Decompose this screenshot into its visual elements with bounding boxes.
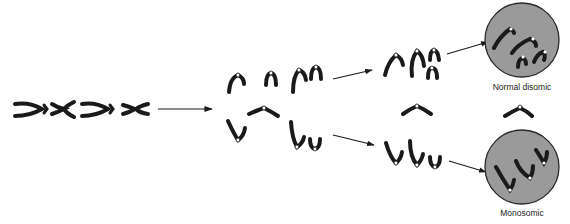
arrow-lower-2: [449, 161, 486, 172]
daughter-lagging: [403, 104, 431, 114]
chromosome-1: [15, 104, 47, 116]
label-monosomic: Monosomic: [472, 208, 570, 218]
cell-monosomic: [485, 130, 559, 204]
arrow-upper-2: [447, 42, 488, 54]
arrow-upper-1: [333, 70, 372, 79]
daughter-lower: [386, 141, 440, 169]
chromosome-4: [123, 104, 148, 114]
chromosome-2: [52, 102, 74, 117]
chromosome-3: [82, 104, 113, 116]
cell-normal-disomic: [485, 3, 559, 77]
daughter-upper: [385, 48, 439, 78]
cell-side-lagging: [505, 105, 532, 116]
label-normal-disomic: Normal disomic: [472, 82, 570, 92]
separation-lagging: [249, 106, 278, 116]
diagram-canvas: [0, 0, 570, 224]
parent-chromosomes: [15, 102, 148, 117]
separation-lower: [228, 121, 320, 151]
separation-upper: [229, 65, 321, 92]
arrow-lower-1: [333, 135, 374, 145]
